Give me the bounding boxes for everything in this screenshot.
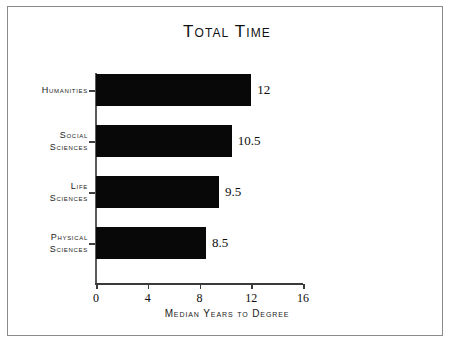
bar-value-label: 10.5 [238, 133, 261, 149]
x-axis-title: Median Years to Degree [0, 308, 454, 319]
x-axis-tick-label: 4 [145, 291, 151, 306]
y-axis-tick [89, 90, 95, 92]
category-label-line: Life [4, 180, 88, 192]
category-axis-labels: HumanitiesSocialSciencesLifeSciencesPhys… [0, 0, 88, 348]
y-axis-tick [89, 141, 95, 143]
bar-value-label: 8.5 [212, 235, 228, 251]
bar[interactable] [96, 176, 219, 208]
bar-value-label: 9.5 [225, 184, 241, 200]
x-axis-tick [303, 284, 305, 289]
x-axis-tick-label: 8 [197, 291, 203, 306]
chart-figure: Total Time HumanitiesSocialSciencesLifeS… [0, 0, 454, 348]
bar-row: 12 [96, 74, 303, 106]
bar-row: 10.5 [96, 125, 303, 157]
category-label-line: Physical [4, 231, 88, 243]
plot-area: 1210.59.58.5 [96, 74, 303, 283]
x-axis-tick [251, 284, 253, 289]
category-label-line: Sciences [4, 243, 88, 255]
y-axis-tick [89, 243, 95, 245]
bar-row: 8.5 [96, 227, 303, 259]
x-axis-tick-label: 16 [297, 291, 309, 306]
category-label-line: Social [4, 129, 88, 141]
bar[interactable] [96, 125, 232, 157]
x-axis-tick-label: 0 [93, 291, 99, 306]
category-label: Humanities [4, 84, 88, 96]
x-axis-tick [96, 284, 98, 289]
category-label: PhysicalSciences [4, 231, 88, 255]
category-label: SocialSciences [4, 129, 88, 153]
category-label-line: Sciences [4, 192, 88, 204]
category-label: LifeSciences [4, 180, 88, 204]
bar-row: 9.5 [96, 176, 303, 208]
bar[interactable] [96, 74, 251, 106]
bar[interactable] [96, 227, 206, 259]
x-axis-tick-label: 12 [245, 291, 257, 306]
category-label-line: Humanities [4, 84, 88, 96]
x-axis-tick [148, 284, 150, 289]
bar-value-label: 12 [257, 82, 270, 98]
y-axis-tick [89, 192, 95, 194]
category-label-line: Sciences [4, 141, 88, 153]
x-axis-tick [200, 284, 202, 289]
